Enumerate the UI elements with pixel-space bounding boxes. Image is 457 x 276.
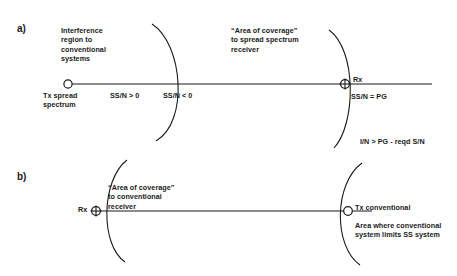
panel-a-condition-inner: SS/N > 0 bbox=[110, 91, 139, 100]
panel-b-rx-label: Rx bbox=[78, 205, 87, 214]
panel-a-rx-label: Rx bbox=[353, 75, 362, 84]
panel-a-rx-node bbox=[340, 79, 351, 90]
panel-b-tag: b) bbox=[17, 172, 26, 181]
panel-b-tx-node bbox=[344, 207, 353, 216]
panel-a-condition-interference: I/N > PG - reqd S/N bbox=[360, 137, 425, 146]
panel-b-coverage-annotation: “Area of coverage” to conventional recei… bbox=[108, 183, 174, 211]
panel-a-interference-arc bbox=[152, 24, 178, 141]
panel-a-interference-annotation: Interference region to conventional syst… bbox=[61, 26, 106, 64]
panel-b-tx-label: Tx conventional bbox=[355, 203, 410, 212]
panel-b-interference-annotation: Area where conventional system limits SS… bbox=[355, 221, 441, 240]
panel-a-tx-node bbox=[64, 80, 72, 88]
panel-a-tag: a) bbox=[17, 24, 26, 33]
panel-a-condition-outer: SS/N < 0 bbox=[163, 91, 192, 100]
panel-a-tx-label: Tx spread spectrum bbox=[43, 91, 77, 110]
spread-spectrum-coverage-figure: a) Interference region to conventional s… bbox=[0, 0, 457, 276]
panel-a-condition-at-receiver: SS/N = PG bbox=[351, 92, 387, 101]
panel-a-coverage-annotation: “Area of coverage” to spread spectrum re… bbox=[231, 26, 299, 54]
panel-b-rx-node bbox=[91, 206, 102, 217]
panel-a-coverage-arc bbox=[329, 30, 350, 148]
